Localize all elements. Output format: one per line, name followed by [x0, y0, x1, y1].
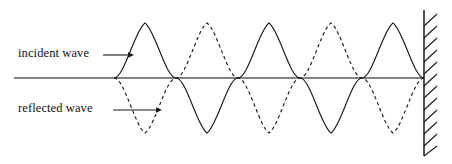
reflected-wave-arrow — [113, 107, 162, 112]
incident-wave-label: incident wave — [18, 46, 89, 61]
wave-diagram-svg — [0, 0, 452, 164]
wave-reflection-figure: incident wave reflected wave — [0, 0, 452, 164]
reflected-wave-label: reflected wave — [18, 101, 93, 116]
incident-wave-arrow — [103, 52, 134, 57]
wall-hatching — [424, 14, 437, 156]
wall — [424, 10, 437, 156]
